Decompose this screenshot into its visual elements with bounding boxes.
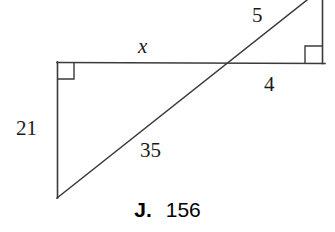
side-label-35: 35	[140, 140, 161, 161]
left-right-angle-marker	[57, 63, 74, 80]
answer-choice-letter: J.	[134, 198, 152, 221]
common-horizontal-line	[57, 63, 325, 64]
side-label-x: x	[138, 36, 147, 57]
right-right-angle-marker	[305, 46, 323, 63]
side-label-4: 4	[264, 74, 275, 95]
side-label-5: 5	[252, 5, 263, 26]
side-label-21: 21	[16, 118, 37, 139]
transversal-diagonal-line	[57, 0, 331, 198]
answer-choice-value: 156	[166, 198, 201, 221]
geometry-figure: x 5 4 21 35 J.156	[0, 0, 335, 232]
answer-choice: J.156	[0, 198, 335, 222]
